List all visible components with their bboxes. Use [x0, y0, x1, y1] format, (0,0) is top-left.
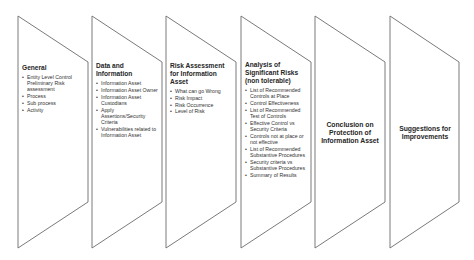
panel-shape-risk-assessment: [166, 16, 236, 248]
panel-suggestions: Suggestions for Improvements: [392, 125, 458, 143]
list-item: Apply Assertions/Security Criteria: [96, 107, 158, 126]
list-item: Activity: [22, 107, 86, 113]
panel-heading: Analysis of Significant Risks (non toler…: [245, 61, 307, 85]
panel-heading: General: [22, 64, 86, 72]
panel-heading: Suggestions for Improvements: [392, 125, 458, 141]
list-item: Information Asset: [96, 80, 158, 86]
list-item: Summary of Results: [245, 172, 307, 178]
list-item: Effective Control vs Security Criteria: [245, 120, 307, 132]
panel-shape-general: [18, 16, 88, 248]
list-item: Control Effectiveness: [245, 100, 307, 106]
list-item: Controls not at place or not effective: [245, 133, 307, 145]
list-item: Information Asset Custodians: [96, 94, 158, 106]
list-item: Information Asset Owner: [96, 87, 158, 93]
panel-list: What can go Wrong Risk Impact Risk Occur…: [170, 88, 232, 115]
panel-heading: Data and Information: [96, 62, 158, 78]
list-item: Entity Level Control Preliminary Risk as…: [22, 74, 86, 93]
list-item: Vulnerabilities related to Information A…: [96, 126, 158, 138]
list-item: Level of Risk: [170, 108, 232, 114]
list-item: List of Recommended Controls at Place: [245, 87, 307, 99]
list-item: Sub process: [22, 100, 86, 106]
list-item: Security criteria vs Substantive Procedu…: [245, 159, 307, 171]
panel-general: General Entity Level Control Preliminary…: [22, 64, 86, 114]
panel-data-information: Data and Information Information Asset I…: [96, 62, 158, 139]
panel-list: List of Recommended Controls at Place Co…: [245, 87, 307, 178]
panel-heading: Conclusion on Protection of Information …: [317, 121, 383, 145]
list-item: List of Recommended Test of Controls: [245, 107, 307, 119]
panel-list: Information Asset Information Asset Owne…: [96, 80, 158, 138]
list-item: Risk Occurrence: [170, 102, 232, 108]
list-item: Process: [22, 93, 86, 99]
panel-conclusion: Conclusion on Protection of Information …: [317, 121, 383, 147]
list-item: List of Recommended Substantive Procedur…: [245, 146, 307, 158]
list-item: What can go Wrong: [170, 88, 232, 94]
panel-analysis: Analysis of Significant Risks (non toler…: [245, 61, 307, 179]
panel-list: Entity Level Control Preliminary Risk as…: [22, 74, 86, 113]
panel-heading: Risk Assessment for Information Asset: [170, 62, 232, 86]
list-item: Risk Impact: [170, 95, 232, 101]
panel-risk-assessment: Risk Assessment for Information Asset Wh…: [170, 62, 232, 115]
